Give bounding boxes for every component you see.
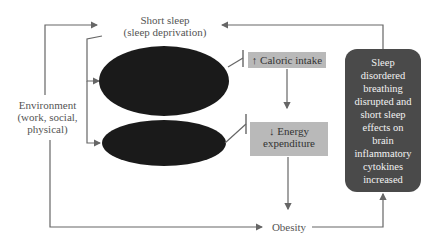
arrow-short-sleep-to-ellipse-1: [87, 36, 102, 81]
node-environment: Environment (work, social, physical): [0, 99, 95, 135]
sdb-line: breathing: [345, 82, 421, 95]
up-arrow-icon: ↑: [252, 54, 258, 66]
short-sleep-label: Short sleep: [110, 14, 220, 26]
energy-label: Energy: [277, 125, 309, 137]
node-obesity: Obesity: [266, 221, 312, 233]
ellipse-2: [102, 120, 226, 166]
node-caloric-intake: ↑ Caloric intake: [248, 52, 326, 68]
arrow-box-to-short-sleep: [222, 25, 383, 50]
sdb-line: brain: [345, 134, 421, 147]
expenditure-label: expenditure: [250, 137, 328, 149]
caloric-intake-label: Caloric intake: [260, 54, 322, 66]
sdb-line: disordered: [345, 69, 421, 82]
environment-sublabel-2: physical): [0, 123, 95, 135]
sdb-line: effects on: [345, 121, 421, 134]
arrow-obesity-to-box: [312, 194, 383, 227]
arrow-environment-to-short-sleep: [45, 25, 97, 95]
sdb-line: increased: [345, 173, 421, 186]
sdb-line: short sleep: [345, 108, 421, 121]
node-sleep-disordered-breathing: Sleep disordered breathing disrupted and…: [345, 49, 421, 192]
ellipse-1: [99, 46, 229, 116]
environment-sublabel-1: (work, social,: [0, 111, 95, 123]
environment-label: Environment: [0, 99, 95, 111]
sdb-line: disrupted and: [345, 95, 421, 108]
down-arrow-icon: ↓: [269, 125, 275, 137]
node-energy-expenditure: ↓ Energy expenditure: [250, 122, 328, 156]
sdb-line: inflammatory: [345, 147, 421, 160]
node-short-sleep: Short sleep (sleep deprivation): [110, 14, 220, 38]
sdb-line: cytokines: [345, 160, 421, 173]
sdb-line: Sleep: [345, 56, 421, 69]
short-sleep-sublabel: (sleep deprivation): [110, 26, 220, 38]
